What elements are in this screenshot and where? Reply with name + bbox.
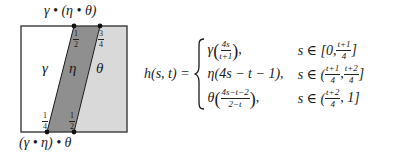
bottom-mark-quarter: 14 [42, 111, 48, 131]
case-3-expression: θ ( 4s−t−2 2−t ) , [208, 87, 284, 109]
piecewise-formula: h(s, t) = γ ( 4s t+1 ) , s ∈ [0, t+14 ] … [144, 36, 364, 112]
gamma-label: γ [42, 60, 48, 77]
bottom-label: (γ • η) • θ [19, 135, 71, 151]
top-mark-half: 12 [73, 29, 79, 49]
close-paren: ) [232, 40, 238, 60]
formula-lhs: h(s, t) = [144, 66, 190, 82]
theta-label: θ [96, 60, 103, 77]
case-2-expression: η(4s − t − 1), [208, 63, 284, 85]
eta-label: η [69, 60, 76, 77]
top-dot-half [72, 24, 77, 29]
top-label: γ • (η • θ) [44, 3, 96, 19]
close-paren: ) [250, 88, 256, 108]
top-dot-three-quarter [98, 24, 103, 29]
open-paren: ( [215, 88, 221, 108]
left-brace-icon [194, 38, 206, 110]
case-1-expression: γ ( 4s t+1 ) , [208, 39, 284, 61]
case-2-condition: s ∈ ( t+14 , t+24 ] [298, 63, 365, 85]
top-mark-three-quarter: 34 [98, 29, 104, 49]
case-1-arg-fraction: 4s t+1 [219, 40, 232, 61]
case-3-arg-fraction: 4s−t−2 2−t [221, 88, 250, 109]
case-3-condition: s ∈ ( t+24 , 1] [298, 87, 365, 109]
open-paren: ( [213, 40, 219, 60]
cases-grid: γ ( 4s t+1 ) , s ∈ [0, t+14 ] η(4s − t −… [208, 39, 365, 109]
case-1-condition: s ∈ [0, t+14 ] [298, 39, 365, 61]
bottom-mark-half: 12 [69, 111, 75, 131]
